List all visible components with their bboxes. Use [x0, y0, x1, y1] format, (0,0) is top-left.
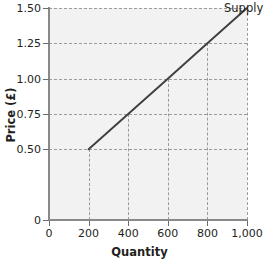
- supply-series-label: Supply: [224, 2, 263, 14]
- supply-line: [89, 8, 247, 149]
- supply-curve-chart: 00.500.751.001.251.50 02004006008001,000…: [0, 0, 279, 265]
- series-layer: [0, 0, 279, 265]
- x-axis-title: Quantity: [0, 245, 279, 259]
- y-axis-title: Price (£): [4, 60, 18, 170]
